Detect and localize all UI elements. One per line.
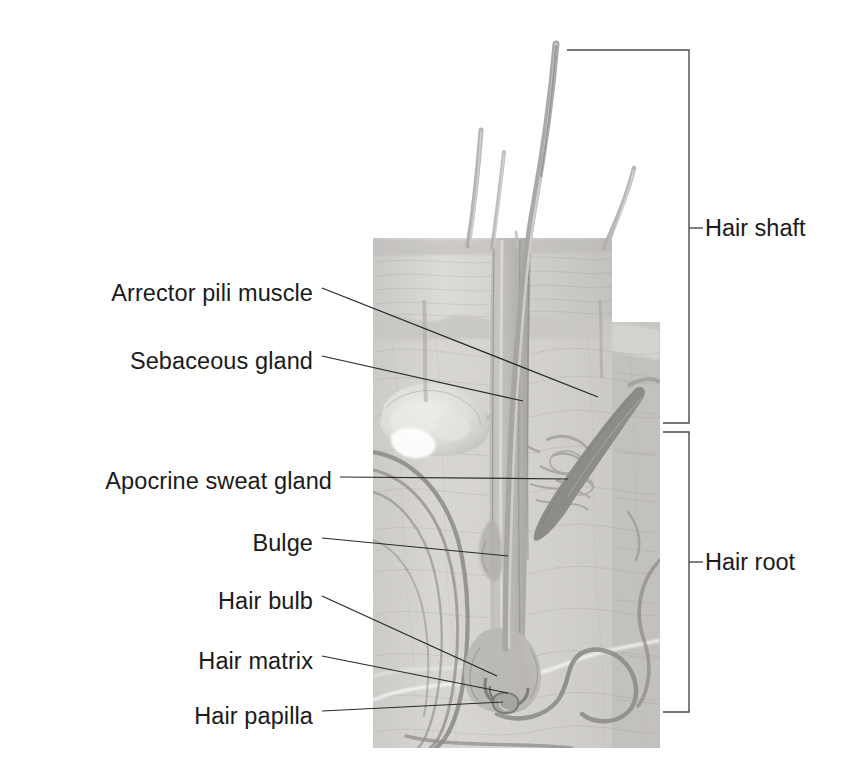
bracket-label-hair-root: Hair root (705, 549, 796, 575)
label-hair-bulb: Hair bulb (218, 588, 313, 614)
figure-canvas: Arrector pili muscle Sebaceous gland Apo… (0, 0, 867, 780)
label-hair-matrix: Hair matrix (198, 648, 313, 674)
dermal-papilla (493, 693, 519, 713)
left-label-group: Arrector pili muscle Sebaceous gland Apo… (105, 280, 332, 729)
bracket-hair-root: Hair root (663, 432, 796, 712)
bracket-label-hair-shaft: Hair shaft (705, 215, 806, 241)
label-hair-papilla: Hair papilla (194, 703, 314, 729)
skin-block (373, 236, 660, 748)
label-arrector-pili-muscle: Arrector pili muscle (111, 280, 313, 306)
label-apocrine-sweat-gland: Apocrine sweat gland (105, 468, 332, 494)
label-bulge: Bulge (252, 530, 313, 556)
hair-anatomy-figure: Arrector pili muscle Sebaceous gland Apo… (0, 0, 867, 780)
label-sebaceous-gland: Sebaceous gland (130, 348, 313, 374)
